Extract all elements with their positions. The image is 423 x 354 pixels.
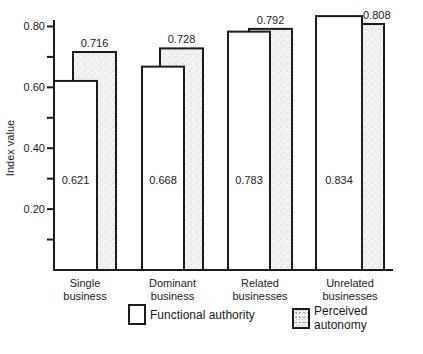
- legend-label: Functional authority: [150, 308, 255, 322]
- x-tick-label: businesses: [232, 290, 288, 302]
- legend-item-functional-authority: Functional authority: [128, 304, 255, 325]
- y-tick-label: 0.80: [24, 20, 45, 32]
- data-label-functional-authority: 0.834: [325, 174, 353, 186]
- x-tick-label: business: [63, 290, 107, 302]
- legend-swatch-plain: [128, 304, 146, 325]
- legend-label: Perceived autonomy: [314, 304, 423, 332]
- y-tick-label: 0.20: [24, 203, 45, 215]
- x-tick-label: Single: [70, 277, 101, 289]
- data-label-perceived-autonomy: 0.728: [168, 33, 196, 45]
- bar-perceived-autonomy: [362, 24, 384, 270]
- y-tick-label: 0.60: [24, 81, 45, 93]
- data-label-functional-authority: 0.621: [62, 174, 90, 186]
- legend-item-perceived-autonomy: Perceived autonomy: [292, 304, 423, 332]
- bar-chart: 0.800.600.400.20 0.6210.716Singlebusines…: [0, 0, 423, 354]
- x-tick-label: Unrelated: [326, 277, 374, 289]
- x-tick-label: business: [151, 290, 195, 302]
- x-tick-label: Dominant: [149, 277, 196, 289]
- x-tick-label: businesses: [322, 290, 378, 302]
- legend: Functional authority Perceived autonomy: [0, 304, 423, 344]
- data-label-perceived-autonomy: 0.716: [81, 37, 109, 49]
- y-tick-label: 0.40: [24, 142, 45, 154]
- data-label-functional-authority: 0.783: [235, 174, 263, 186]
- legend-swatch-stipple: [292, 308, 310, 329]
- x-tick-label: Related: [241, 277, 279, 289]
- bar-functional-authority: [316, 16, 362, 270]
- bar-functional-authority: [142, 67, 184, 270]
- data-label-perceived-autonomy: 0.808: [363, 9, 391, 21]
- y-axis-label: Index value: [4, 120, 16, 176]
- data-label-perceived-autonomy: 0.792: [257, 14, 285, 26]
- bar-functional-authority: [228, 32, 270, 270]
- data-label-functional-authority: 0.668: [149, 174, 177, 186]
